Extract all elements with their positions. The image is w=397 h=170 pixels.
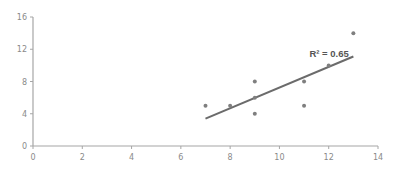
- x-tick-label: 4: [129, 153, 134, 162]
- trendline: [206, 57, 354, 119]
- y-tick-label: 0: [22, 142, 27, 151]
- tick-labels: 024681012140481216: [17, 13, 383, 162]
- y-tick-label: 16: [17, 13, 27, 22]
- data-point: [228, 104, 232, 108]
- data-point: [327, 63, 331, 67]
- data-point: [204, 104, 208, 108]
- x-tick-label: 8: [228, 153, 233, 162]
- data-point: [302, 104, 306, 108]
- x-tick-label: 12: [324, 153, 334, 162]
- data-point: [253, 96, 257, 100]
- x-tick-label: 6: [178, 153, 183, 162]
- y-tick-label: 4: [22, 110, 27, 119]
- r-squared-label: R² = 0.65: [309, 48, 349, 59]
- data-point: [302, 80, 306, 84]
- data-point: [351, 31, 355, 35]
- data-points: [204, 31, 356, 116]
- scatter-chart: 024681012140481216 R² = 0.65: [0, 0, 397, 170]
- x-tick-label: 2: [80, 153, 85, 162]
- y-tick-label: 12: [17, 45, 27, 54]
- data-point: [253, 112, 257, 116]
- x-tick-label: 0: [30, 153, 35, 162]
- data-point: [253, 80, 257, 84]
- y-tick-label: 8: [22, 78, 27, 87]
- axes: [30, 17, 378, 149]
- x-tick-label: 10: [274, 153, 284, 162]
- x-tick-label: 14: [373, 153, 383, 162]
